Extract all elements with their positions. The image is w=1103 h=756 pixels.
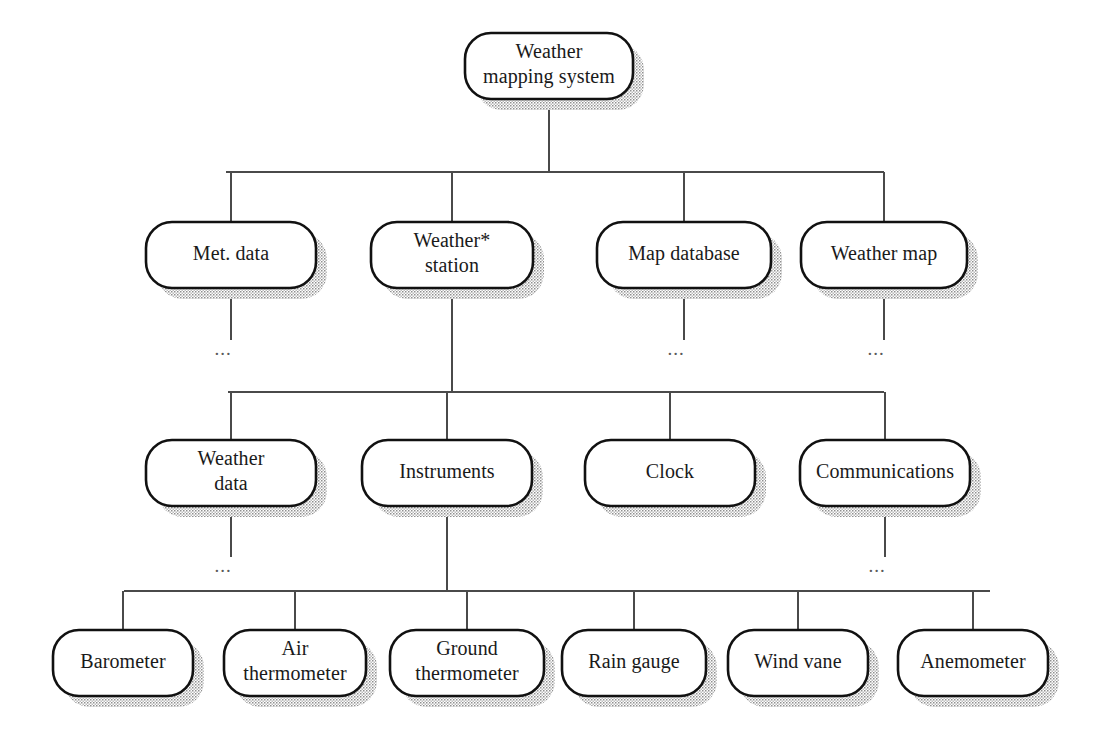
node-label-instruments: Instruments — [399, 460, 495, 482]
node-label-clock: Clock — [646, 460, 694, 482]
node-clock[interactable]: Clock — [585, 440, 755, 506]
node-label-rain-gauge: Rain gauge — [588, 650, 680, 673]
node-label-wind-vane: Wind vane — [754, 650, 841, 672]
node-anemometer[interactable]: Anemometer — [898, 630, 1048, 696]
node-label-ground-thermometer: thermometer — [415, 662, 519, 684]
node-weather-map[interactable]: Weather map — [801, 222, 967, 288]
node-label-weather-data: Weather — [198, 447, 265, 469]
node-label-air-thermometer: Air — [282, 637, 309, 659]
node-weather-station[interactable]: Weather*station — [371, 222, 533, 288]
node-instruments[interactable]: Instruments — [362, 440, 532, 506]
node-weather-mapping-system[interactable]: Weathermapping system — [465, 33, 633, 99]
node-shadow-layer — [64, 44, 1059, 707]
node-map-database[interactable]: Map database — [597, 222, 771, 288]
node-label-weather-mapping-system: Weather — [516, 40, 583, 62]
node-label-weather-mapping-system: mapping system — [483, 65, 615, 88]
ellipsis-marker-communications: ... — [868, 555, 885, 576]
node-label-weather-map: Weather map — [831, 242, 938, 265]
ellipsis-marker-weather-data: ... — [214, 555, 231, 576]
connector-group-bus-level3 — [228, 288, 884, 392]
node-barometer[interactable]: Barometer — [53, 630, 193, 696]
connector-layer — [123, 99, 990, 630]
ellipsis-marker-weather-map: ... — [867, 338, 884, 359]
ellipsis-marker-map-database: ... — [667, 338, 684, 359]
node-label-barometer: Barometer — [80, 650, 166, 672]
node-communications[interactable]: Communications — [800, 440, 970, 506]
tree-svg-canvas: Weathermapping systemMet. dataWeather*st… — [0, 0, 1103, 756]
node-label-air-thermometer: thermometer — [243, 662, 347, 684]
node-label-ground-thermometer: Ground — [436, 637, 498, 659]
decomposition-diagram: Weathermapping systemMet. dataWeather*st… — [0, 0, 1103, 756]
node-label-anemometer: Anemometer — [920, 650, 1026, 672]
node-wind-vane[interactable]: Wind vane — [728, 630, 868, 696]
node-label-communications: Communications — [816, 460, 954, 482]
node-layer: Weathermapping systemMet. dataWeather*st… — [53, 33, 1048, 696]
connector-group-bus-level4 — [124, 506, 990, 591]
node-met-data[interactable]: Met. data — [146, 222, 316, 288]
node-label-map-database: Map database — [628, 242, 740, 265]
ellipsis-marker-met-data: ... — [214, 338, 231, 359]
node-label-weather-station: station — [425, 254, 479, 276]
node-weather-data[interactable]: Weatherdata — [146, 440, 316, 506]
node-label-met-data: Met. data — [193, 242, 269, 264]
node-air-thermometer[interactable]: Airthermometer — [224, 630, 366, 696]
node-rain-gauge[interactable]: Rain gauge — [562, 630, 706, 696]
node-label-weather-station: Weather* — [414, 229, 491, 251]
node-ground-thermometer[interactable]: Groundthermometer — [390, 630, 544, 696]
node-label-weather-data: data — [214, 472, 248, 494]
